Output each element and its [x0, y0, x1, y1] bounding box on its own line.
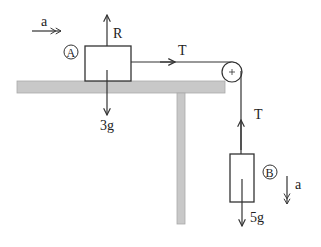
tension-label-horizontal: T [178, 43, 187, 58]
table-leg [177, 93, 185, 224]
weight-label-b: 5g [250, 210, 264, 225]
acceleration-label-b: a [295, 177, 302, 192]
pulley-diagram: a A R 3g T T B 5g a [0, 0, 321, 247]
particle-label-a: A [67, 46, 76, 60]
reaction-label: R [113, 26, 123, 41]
acceleration-label-a: a [41, 14, 48, 29]
tension-label-vertical: T [254, 107, 263, 122]
block-a [85, 46, 131, 81]
table-top [17, 81, 225, 93]
particle-label-b: B [266, 166, 274, 180]
weight-label-a: 3g [100, 118, 114, 133]
